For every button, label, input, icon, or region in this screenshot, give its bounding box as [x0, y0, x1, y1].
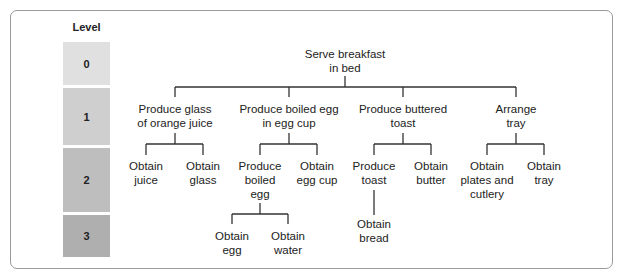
node-obtain-juice: Obtain juice — [129, 159, 163, 187]
node-serve-breakfast: Serve breakfast in bed — [305, 47, 386, 75]
node-obtain-egg-cup: Obtain egg cup — [297, 159, 338, 187]
node-obtain-glass: Obtain glass — [186, 159, 220, 187]
tree-connectors — [0, 0, 624, 280]
node-obtain-bread: Obtain bread — [357, 217, 391, 245]
node-obtain-egg: Obtain egg — [215, 229, 249, 257]
node-produce-buttered-toast: Produce buttered toast — [359, 102, 447, 130]
node-produce-toast: Produce toast — [353, 159, 396, 187]
node-obtain-butter: Obtain butter — [414, 159, 448, 187]
node-produce-boiled-egg-in-cup: Produce boiled egg in egg cup — [239, 102, 338, 130]
node-obtain-water: Obtain water — [271, 229, 305, 257]
node-obtain-tray: Obtain tray — [527, 159, 561, 187]
node-produce-orange-juice: Produce glass of orange juice — [137, 102, 212, 130]
node-arrange-tray: Arrange tray — [496, 102, 537, 130]
node-obtain-plates-cutlery: Obtain plates and cutlery — [460, 159, 513, 201]
node-produce-boiled-egg: Produce boiled egg — [239, 159, 282, 201]
